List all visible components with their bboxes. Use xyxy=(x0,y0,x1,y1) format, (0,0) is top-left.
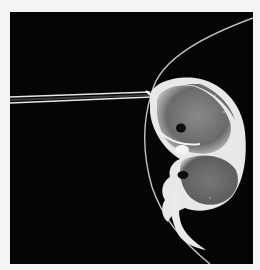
eye-spot xyxy=(176,124,186,133)
micropipette xyxy=(10,91,154,103)
embryo xyxy=(150,78,246,250)
embryo-illustration xyxy=(10,12,253,264)
embryo-photo xyxy=(10,12,253,264)
otic-spot xyxy=(178,171,189,179)
